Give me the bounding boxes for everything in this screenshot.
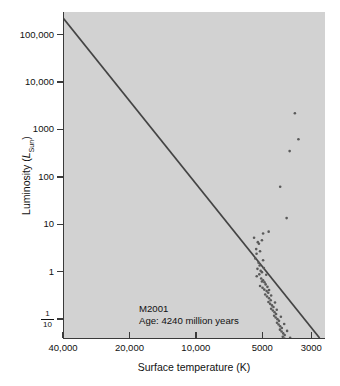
y-tick-mark: [57, 224, 63, 225]
star-data-point: [275, 308, 278, 311]
star-data-point: [270, 294, 273, 297]
x-tick-mark: [195, 332, 196, 338]
star-data-point: [262, 259, 265, 262]
y-tick-mark: [57, 81, 63, 82]
star-data-point: [254, 257, 257, 260]
star-data-point: [272, 306, 275, 309]
star-data-point: [285, 217, 288, 220]
x-tick-label: 40,000: [48, 343, 77, 353]
x-tick-mark: [129, 332, 130, 338]
star-data-point: [268, 289, 271, 292]
star-data-point: [255, 275, 258, 278]
star-data-point: [262, 232, 265, 235]
star-data-point: [297, 138, 300, 141]
y-tick-label: 100,000: [20, 30, 54, 40]
star-data-point: [275, 313, 278, 316]
zams-line: [63, 15, 320, 338]
star-data-point: [294, 112, 297, 115]
x-tick-mark: [62, 332, 63, 338]
star-data-point: [258, 264, 261, 267]
x-tick-mark: [262, 332, 263, 338]
star-data-point: [258, 273, 261, 276]
cluster-annotation: M2001 Age: 4240 million years: [139, 303, 239, 328]
y-tick-mark: [57, 34, 63, 35]
star-data-point: [278, 320, 281, 323]
star-data-point: [257, 261, 260, 264]
y-axis-title: Luminosity (LSun): [20, 91, 35, 261]
star-data-point: [261, 239, 264, 242]
y-tick-label: 100: [38, 172, 54, 182]
y-axis-title-symbol: L: [20, 152, 32, 158]
hr-diagram-figure: M2001 Age: 4240 million years 100,00010,…: [0, 0, 340, 386]
star-data-point: [269, 299, 272, 302]
y-axis-title-suffix: ): [20, 136, 32, 140]
fraction-denominator: 10: [41, 321, 54, 329]
cluster-name-label: M2001: [139, 303, 239, 315]
star-data-point: [266, 295, 269, 298]
star-data-point: [279, 185, 282, 188]
star-data-point: [274, 301, 277, 304]
star-data-point: [256, 268, 259, 271]
star-data-point: [264, 283, 267, 286]
star-data-point: [288, 150, 291, 153]
y-axis-line: [63, 12, 64, 339]
star-data-point: [255, 248, 258, 251]
y-tick-mark: [57, 129, 63, 130]
star-data-point: [267, 291, 270, 294]
star-data-point: [263, 288, 266, 291]
star-data-point: [253, 236, 256, 239]
star-data-point: [259, 285, 262, 288]
star-data-point: [280, 316, 283, 319]
y-tick-label: 110: [41, 310, 54, 329]
star-data-point: [286, 330, 289, 333]
star-data-point: [265, 274, 268, 277]
plot-svg: [63, 12, 325, 338]
y-tick-label: 1: [49, 267, 54, 277]
plot-area: M2001 Age: 4240 million years: [63, 12, 325, 338]
x-tick-mark: [311, 332, 312, 338]
x-tick-label: 3000: [301, 343, 322, 353]
y-tick-label: 10: [43, 219, 54, 229]
y-axis-title-prefix: Luminosity (: [20, 158, 32, 215]
x-tick-label: 5000: [252, 343, 273, 353]
star-data-point: [255, 252, 258, 255]
star-data-point: [260, 277, 263, 280]
star-data-point: [267, 230, 270, 233]
star-data-point: [264, 293, 267, 296]
star-data-point: [266, 286, 269, 289]
cluster-age-label: Age: 4240 million years: [139, 315, 239, 327]
x-axis-title: Surface temperature (K): [63, 361, 325, 373]
y-axis-title-subscript: Sun: [27, 140, 36, 153]
x-tick-label: 20,000: [115, 343, 144, 353]
star-data-point: [261, 280, 264, 283]
zams-line-group: [63, 15, 320, 338]
star-data-point: [263, 267, 266, 270]
x-axis-line: [63, 338, 325, 339]
star-data-point: [257, 241, 260, 244]
cluster-stars-group: [253, 112, 303, 338]
y-tick-mark: [57, 318, 63, 319]
y-tick-mark: [57, 176, 63, 177]
y-tick-label: 10,000: [25, 77, 54, 87]
y-tick-label: 1000: [33, 124, 54, 134]
x-tick-label: 10,000: [181, 343, 210, 353]
y-tick-mark: [57, 271, 63, 272]
star-data-point: [259, 250, 262, 253]
fraction-numerator: 1: [41, 310, 54, 318]
star-data-point: [283, 323, 286, 326]
star-data-point: [261, 271, 264, 274]
